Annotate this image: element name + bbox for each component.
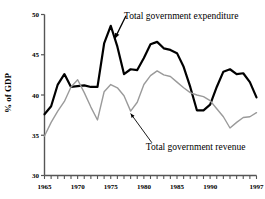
expenditure-label: Total government expenditure xyxy=(124,11,238,21)
x-axis-tick-label: 1990 xyxy=(203,183,218,191)
chart-container: % of GDP 3035404550196519701975198019851… xyxy=(0,0,265,199)
x-axis-tick-label: 1985 xyxy=(170,183,185,191)
axis-layer xyxy=(41,15,257,180)
revenue-label-arrow-head xyxy=(131,114,135,118)
revenue-label-arrow-line xyxy=(131,114,152,143)
y-axis-tick-label: 40 xyxy=(32,92,40,100)
x-axis-tick-label: 1975 xyxy=(104,183,119,191)
revenue-label: Total government revenue xyxy=(146,142,246,152)
line-chart-plot: 30354045501965197019751980198519901997 T… xyxy=(0,0,265,199)
x-axis-tick-label: 1970 xyxy=(71,183,86,191)
y-axis-tick-label: 45 xyxy=(32,51,40,59)
y-axis-tick-label: 30 xyxy=(32,172,40,180)
data-series-layer xyxy=(45,26,257,136)
series-line-revenue xyxy=(45,71,257,136)
y-axis-tick-label: 50 xyxy=(32,11,40,19)
y-axis-tick-label: 35 xyxy=(32,132,40,140)
annotation-layer: Total government expenditureTotal govern… xyxy=(115,11,246,151)
x-axis-tick-label: 1965 xyxy=(38,183,53,191)
x-axis-tick-label: 1980 xyxy=(137,183,152,191)
x-axis-tick-label: 1997 xyxy=(250,183,265,191)
series-line-expenditure xyxy=(45,26,257,115)
axis-tick-labels: 30354045501965197019751980198519901997 xyxy=(32,11,264,190)
